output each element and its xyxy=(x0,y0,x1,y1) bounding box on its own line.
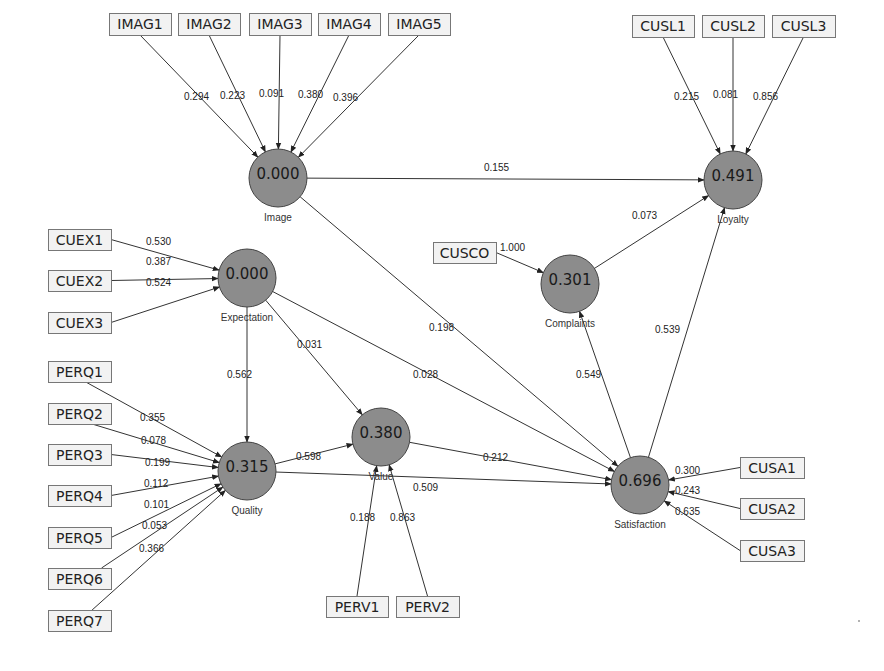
indicator-perq6[interactable]: PERQ6 xyxy=(49,569,112,590)
weight-label-cusl2: 0.081 xyxy=(713,89,738,100)
path-coef-expectation-satisfaction: 0.028 xyxy=(413,369,438,380)
indicator-label: CUSCO xyxy=(440,245,490,261)
weight-label-perv2: 0.863 xyxy=(390,512,415,523)
construct-label: Image xyxy=(264,212,292,223)
indicator-label: CUSL2 xyxy=(710,18,756,34)
r-squared-value: 0.696 xyxy=(619,472,662,490)
path-expectation-to-value xyxy=(266,300,363,415)
construct-label: Value xyxy=(369,471,394,482)
indicator-perq4[interactable]: PERQ4 xyxy=(49,486,112,507)
indicator-edge-cusco xyxy=(496,253,543,273)
stray-dot xyxy=(858,620,860,622)
indicator-label: CUEX3 xyxy=(56,315,103,331)
indicator-cusco[interactable]: CUSCO xyxy=(434,243,497,264)
weight-label-perq3: 0.199 xyxy=(145,457,170,468)
path-coef-expectation-value: 0.031 xyxy=(297,339,322,350)
indicator-cusa2[interactable]: CUSA2 xyxy=(741,499,805,520)
indicator-label: CUSA2 xyxy=(748,501,796,517)
indicator-perv1[interactable]: PERV1 xyxy=(327,597,389,618)
path-complaints-to-loyalty xyxy=(594,196,708,269)
weight-label-cusa2: 0.243 xyxy=(675,485,700,496)
path-coef-image-satisfaction: 0.198 xyxy=(429,322,454,333)
construct-complaints[interactable]: 0.301Complaints xyxy=(541,255,599,329)
weight-label-imag3: 0.091 xyxy=(259,88,284,99)
path-coef-satisfaction-complaints: 0.549 xyxy=(576,369,601,380)
indicator-imag3[interactable]: IMAG3 xyxy=(250,14,312,36)
indicator-label: IMAG1 xyxy=(117,16,162,32)
indicator-perv2[interactable]: PERV2 xyxy=(397,597,460,618)
weight-label-imag4: 0.380 xyxy=(298,89,323,100)
indicator-perq5[interactable]: PERQ5 xyxy=(49,528,112,549)
construct-label: Satisfaction xyxy=(614,519,666,530)
indicator-cuex2[interactable]: CUEX2 xyxy=(49,271,112,292)
weight-label-perq4: 0.112 xyxy=(144,478,169,489)
indicator-label: PERV1 xyxy=(335,599,380,615)
construct-satisfaction[interactable]: 0.696Satisfaction xyxy=(611,456,669,530)
indicator-imag1[interactable]: IMAG1 xyxy=(110,14,172,36)
indicator-perq2[interactable]: PERQ2 xyxy=(49,404,112,425)
path-value-to-satisfaction xyxy=(410,442,612,479)
indicator-cusl3[interactable]: CUSL3 xyxy=(773,16,836,38)
indicator-label: CUSA1 xyxy=(748,460,796,476)
weight-label-cusl3: 0.856 xyxy=(753,91,778,102)
construct-label: Complaints xyxy=(545,318,595,329)
construct-value[interactable]: 0.380Value xyxy=(352,408,410,482)
path-coef-quality-value: 0.598 xyxy=(296,451,321,462)
indicator-cusa3[interactable]: CUSA3 xyxy=(741,541,805,562)
indicator-edge-cuex3 xyxy=(111,287,219,322)
indicator-perq3[interactable]: PERQ3 xyxy=(49,445,112,466)
weight-label-cuex1: 0.530 xyxy=(146,236,171,247)
indicator-perq1[interactable]: PERQ1 xyxy=(49,362,112,383)
weight-label-cuex2: 0.387 xyxy=(146,256,171,267)
indicator-label: PERQ4 xyxy=(56,488,103,504)
indicator-label: IMAG2 xyxy=(186,16,231,32)
path-satisfaction-to-complaints xyxy=(580,311,631,457)
r-squared-value: 0.380 xyxy=(360,424,403,442)
weight-label-perq1: 0.355 xyxy=(140,412,165,423)
path-coef-complaints-loyalty: 0.073 xyxy=(632,210,657,221)
indicator-imag4[interactable]: IMAG4 xyxy=(319,14,381,36)
r-squared-value: 0.315 xyxy=(226,458,269,476)
construct-expectation[interactable]: 0.000Expectation xyxy=(218,249,276,323)
path-coef-expectation-quality: 0.562 xyxy=(227,369,252,380)
r-squared-value: 0.000 xyxy=(226,265,269,283)
indicator-imag2[interactable]: IMAG2 xyxy=(179,14,241,36)
path-coef-quality-satisfaction: 0.509 xyxy=(413,482,438,493)
weight-label-cusa3: 0.635 xyxy=(675,506,700,517)
indicator-cusa1[interactable]: CUSA1 xyxy=(741,458,805,479)
construct-label: Quality xyxy=(231,505,262,516)
construct-image[interactable]: 0.000Image xyxy=(249,149,307,223)
weight-label-perq6: 0.053 xyxy=(142,520,167,531)
weight-label-cusl1: 0.215 xyxy=(674,91,699,102)
path-coef-satisfaction-loyalty: 0.539 xyxy=(655,324,680,335)
indicator-label: IMAG4 xyxy=(326,16,371,32)
indicator-label: CUSL3 xyxy=(781,18,827,34)
path-coef-value-satisfaction: 0.212 xyxy=(483,452,508,463)
indicator-label: CUEX2 xyxy=(56,273,103,289)
indicator-cuex1[interactable]: CUEX1 xyxy=(49,230,112,251)
indicator-label: PERQ5 xyxy=(56,530,103,546)
weight-label-perq5: 0.101 xyxy=(144,499,169,510)
indicator-label: PERQ6 xyxy=(56,571,103,587)
indicator-cusl1[interactable]: CUSL1 xyxy=(633,16,695,38)
indicator-label: PERQ7 xyxy=(56,613,103,629)
r-squared-value: 0.000 xyxy=(257,165,300,183)
indicator-cuex3[interactable]: CUEX3 xyxy=(49,313,112,334)
indicator-label: CUEX1 xyxy=(56,232,103,248)
path-image-to-loyalty xyxy=(307,178,704,180)
indicator-edge-perv1 xyxy=(357,466,377,596)
weight-label-perq7: 0.366 xyxy=(139,543,164,554)
construct-loyalty[interactable]: 0.491Loyalty xyxy=(704,151,762,225)
indicator-label: PERQ1 xyxy=(56,364,103,380)
construct-quality[interactable]: 0.315Quality xyxy=(218,442,276,516)
construct-label: Expectation xyxy=(221,312,273,323)
weight-label-cusa1: 0.300 xyxy=(675,465,700,476)
weight-label-imag5: 0.396 xyxy=(333,92,358,103)
indicator-label: IMAG3 xyxy=(257,16,302,32)
pls-path-diagram: 0.2940.2230.0910.3800.3960.2150.0810.856… xyxy=(0,0,884,671)
indicator-cusl2[interactable]: CUSL2 xyxy=(703,16,765,38)
indicator-perq7[interactable]: PERQ7 xyxy=(49,611,112,632)
indicator-label: PERQ2 xyxy=(56,406,103,422)
indicator-label: PERQ3 xyxy=(56,447,103,463)
indicator-imag5[interactable]: IMAG5 xyxy=(389,14,451,36)
